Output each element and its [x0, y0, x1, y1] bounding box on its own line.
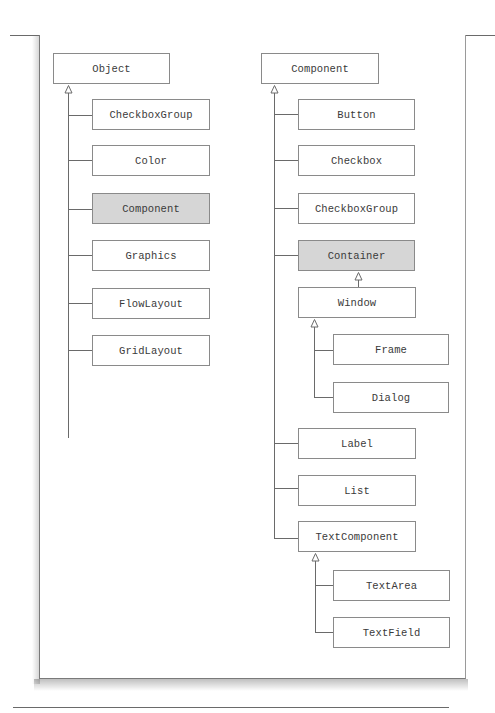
bottom-rule — [13, 707, 449, 708]
connector — [274, 488, 298, 489]
class-box-checkbox: Checkbox — [298, 145, 415, 176]
class-label: List — [344, 485, 370, 497]
class-box-textcomponent: TextComponent — [298, 521, 416, 552]
class-box-flowlayout: FlowLayout — [92, 288, 210, 319]
class-box-graphics: Graphics — [92, 240, 210, 271]
connector — [68, 115, 92, 116]
class-label: FlowLayout — [119, 298, 183, 310]
inheritance-trunk — [68, 93, 69, 438]
class-box-list: List — [298, 475, 416, 506]
connector — [274, 160, 298, 161]
class-label: Object — [92, 63, 130, 75]
class-box-textfield: TextField — [333, 617, 450, 648]
class-label: TextArea — [366, 580, 417, 592]
connector — [314, 350, 333, 351]
class-box-textarea: TextArea — [333, 570, 450, 601]
class-box-frame: Frame — [333, 334, 449, 365]
class-label: Label — [341, 438, 373, 450]
class-label: Dialog — [372, 392, 410, 404]
connector — [68, 160, 92, 161]
connector — [274, 114, 298, 115]
class-box-container: Container — [298, 240, 415, 271]
class-label: TextComponent — [315, 531, 398, 543]
class-label: Frame — [375, 344, 407, 356]
connector — [274, 255, 298, 256]
class-label: Button — [337, 109, 375, 121]
class-label: TextField — [363, 627, 421, 639]
class-label: Component — [122, 203, 180, 215]
connector — [274, 443, 298, 444]
page-shadow — [34, 679, 468, 691]
class-label: GridLayout — [119, 345, 183, 357]
class-box-window: Window — [298, 287, 416, 318]
connector — [274, 208, 298, 209]
class-label: Graphics — [125, 250, 176, 262]
class-label: Color — [135, 155, 167, 167]
class-box-component-root: Component — [261, 53, 379, 84]
class-box-color: Color — [92, 145, 210, 176]
class-box-checkboxgroup: CheckboxGroup — [298, 193, 415, 224]
class-label: Window — [338, 297, 376, 309]
connector — [315, 632, 334, 633]
connector — [68, 350, 92, 351]
connector — [68, 255, 92, 256]
connector — [315, 585, 334, 586]
class-box-component: Component — [92, 193, 210, 224]
connector — [274, 538, 298, 539]
class-box-gridlayout: GridLayout — [92, 335, 210, 366]
class-box-checkboxgroup: CheckboxGroup — [92, 99, 210, 130]
inheritance-trunk — [315, 561, 316, 633]
class-box-object: Object — [53, 53, 170, 84]
connector — [68, 209, 92, 210]
connector — [68, 303, 92, 304]
class-label: Component — [291, 63, 349, 75]
class-label: Container — [328, 250, 386, 262]
class-label: CheckboxGroup — [315, 203, 398, 215]
class-box-button: Button — [298, 99, 415, 130]
connector — [314, 397, 333, 398]
class-box-label: Label — [298, 428, 416, 459]
class-label: CheckboxGroup — [109, 109, 192, 121]
class-box-dialog: Dialog — [333, 382, 449, 413]
inheritance-trunk — [314, 327, 315, 398]
class-label: Checkbox — [331, 155, 382, 167]
